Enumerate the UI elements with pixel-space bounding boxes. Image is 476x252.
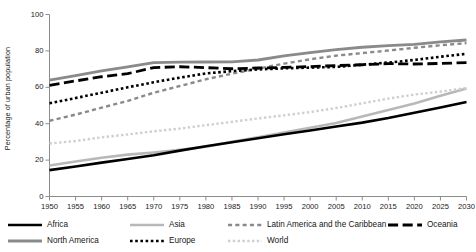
legend-label: Asia [169, 220, 185, 230]
y-tick-label: 40 [18, 119, 44, 128]
series-line-asia [50, 89, 467, 166]
legend-label: Oceania [427, 220, 458, 230]
legend-item-north-america[interactable]: North America [8, 234, 99, 248]
chart-page: Percentage of urban population 020406080… [0, 0, 476, 252]
legend-swatch-icon [130, 220, 164, 230]
legend-item-world[interactable]: World [228, 234, 288, 248]
plot-area: Percentage of urban population 020406080… [0, 0, 476, 214]
legend-label: Africa [47, 220, 68, 230]
legend-swatch-icon [228, 236, 262, 246]
chart-canvas [0, 0, 476, 214]
legend-swatch-icon [388, 220, 422, 230]
series-line-latin-america-and-the-caribbean [50, 43, 467, 121]
y-axis-label: Percentage of urban population [0, 0, 16, 196]
legend-swatch-icon [228, 220, 262, 230]
y-tick-label: 60 [18, 82, 44, 91]
x-tick-label: 2030 [452, 202, 476, 211]
legend-swatch-icon [130, 236, 164, 246]
y-tick-label: 100 [18, 10, 44, 19]
legend-item-oceania[interactable]: Oceania [388, 218, 458, 232]
legend-swatch-icon [8, 236, 42, 246]
legend-item-latin-america-and-the-caribbean[interactable]: Latin America and the Caribbean [228, 218, 386, 232]
legend-swatch-icon [8, 220, 42, 230]
legend-label: North America [47, 236, 99, 246]
y-tick-label: 20 [18, 155, 44, 164]
y-tick-label: 0 [18, 192, 44, 201]
legend-item-asia[interactable]: Asia [130, 218, 185, 232]
chart-legend: AfricaAsiaLatin America and the Caribbea… [0, 214, 476, 252]
legend-item-africa[interactable]: Africa [8, 218, 68, 232]
series-line-oceania [50, 63, 467, 86]
legend-label: World [267, 236, 288, 246]
legend-label: Latin America and the Caribbean [267, 220, 386, 230]
legend-label: Europe [169, 236, 195, 246]
legend-item-europe[interactable]: Europe [130, 234, 195, 248]
y-tick-label: 80 [18, 46, 44, 55]
